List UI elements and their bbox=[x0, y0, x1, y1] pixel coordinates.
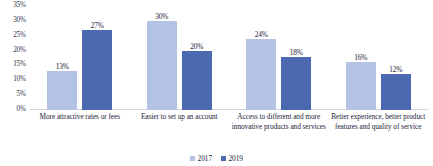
bar-chart: 35% 30% 25% 20% 15% 10% 5% 0% 13% 27% bbox=[0, 0, 433, 166]
bar-2017[interactable] bbox=[246, 39, 276, 110]
category-label: Better experience, better product featur… bbox=[329, 112, 429, 131]
legend-swatch-icon bbox=[221, 156, 226, 161]
bar-group: 24% 18% bbox=[229, 6, 329, 110]
bar-wrap: 13% bbox=[47, 6, 77, 110]
legend-label: 2019 bbox=[229, 155, 243, 162]
y-axis-tick: 25% bbox=[13, 32, 26, 39]
bar-wrap: 16% bbox=[346, 6, 376, 110]
bar-2017[interactable] bbox=[147, 21, 177, 110]
bar-2019[interactable] bbox=[82, 30, 112, 110]
bar-value-label: 27% bbox=[91, 22, 104, 30]
bar-group: 16% 12% bbox=[329, 6, 429, 110]
bar-2019[interactable] bbox=[281, 57, 311, 110]
category-label: Access to different and more innovative … bbox=[229, 112, 329, 131]
bar-wrap: 12% bbox=[381, 6, 411, 110]
bar-value-label: 30% bbox=[155, 13, 168, 21]
y-axis-tick: 30% bbox=[13, 17, 26, 24]
bar-wrap: 20% bbox=[182, 6, 212, 110]
bar-group: 13% 27% bbox=[30, 6, 130, 110]
bar-groups: 13% 27% 30% 20% bbox=[30, 6, 428, 110]
x-axis-category-labels: More attractive rates or fees Easier to … bbox=[30, 112, 428, 131]
bar-value-label: 20% bbox=[190, 43, 203, 51]
category-label: Easier to set up an account bbox=[130, 112, 230, 131]
y-axis-tick: 10% bbox=[13, 77, 26, 84]
legend-swatch-icon bbox=[190, 156, 195, 161]
bar-2017[interactable] bbox=[346, 62, 376, 110]
bar-wrap: 18% bbox=[281, 6, 311, 110]
y-axis-tick: 15% bbox=[13, 62, 26, 69]
y-axis-tick: 35% bbox=[13, 2, 26, 9]
y-axis-tick: 0% bbox=[17, 106, 26, 113]
chart-legend: 2017 2019 bbox=[0, 155, 433, 162]
bar-value-label: 16% bbox=[354, 54, 367, 62]
legend-item-2019[interactable]: 2019 bbox=[221, 155, 243, 162]
y-axis: 35% 30% 25% 20% 15% 10% 5% 0% bbox=[0, 6, 28, 110]
bar-2019[interactable] bbox=[182, 51, 212, 110]
plot-area: 13% 27% 30% 20% bbox=[30, 6, 428, 110]
bar-wrap: 30% bbox=[147, 6, 177, 110]
category-label: More attractive rates or fees bbox=[30, 112, 130, 131]
bar-value-label: 12% bbox=[389, 66, 402, 74]
bar-2017[interactable] bbox=[47, 71, 77, 110]
y-axis-tick: 20% bbox=[13, 47, 26, 54]
bar-2019[interactable] bbox=[381, 74, 411, 110]
bar-value-label: 13% bbox=[56, 63, 69, 71]
bar-wrap: 27% bbox=[82, 6, 112, 110]
bar-value-label: 18% bbox=[290, 49, 303, 57]
legend-item-2017[interactable]: 2017 bbox=[190, 155, 212, 162]
bar-value-label: 24% bbox=[255, 31, 268, 39]
bar-group: 30% 20% bbox=[130, 6, 230, 110]
y-axis-tick: 5% bbox=[17, 92, 26, 99]
legend-label: 2017 bbox=[198, 155, 212, 162]
bar-wrap: 24% bbox=[246, 6, 276, 110]
